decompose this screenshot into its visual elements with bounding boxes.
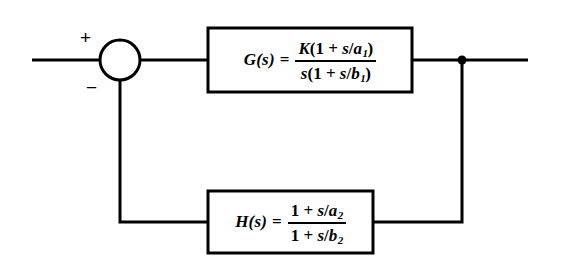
feedback-block-fraction-bar — [288, 222, 346, 224]
feedback-block-fraction: 1 + s/a2 1 + s/b2 — [288, 200, 346, 247]
feedback-block-lhs: H(s) — [235, 212, 267, 232]
feedback-block-denominator: 1 + s/b2 — [288, 225, 346, 246]
summing-junction-plus-sign: + — [80, 28, 91, 47]
takeoff-node-dot — [458, 56, 467, 65]
forward-block-equals: = — [280, 50, 290, 70]
feedback-block-numerator: 1 + s/a2 — [288, 200, 346, 221]
forward-block-lhs: G(s) — [244, 50, 275, 70]
feedback-block-equation: H(s) = 1 + s/a2 1 + s/b2 — [208, 191, 373, 253]
block-diagram: + − G(s) = K(1 + s/a1) s(1 + s/b1) H(s) … — [0, 0, 561, 270]
feedback-wire-left — [120, 80, 208, 222]
forward-block-numerator: K(1 + s/a1) — [295, 38, 376, 59]
forward-block-equation: G(s) = K(1 + s/a1) s(1 + s/b1) — [208, 28, 412, 92]
feedback-block-equals: = — [272, 212, 282, 232]
forward-block-fraction: K(1 + s/a1) s(1 + s/b1) — [295, 38, 376, 85]
summing-junction-circle — [100, 40, 140, 80]
summing-junction-minus-sign: − — [86, 78, 97, 97]
forward-block-denominator: s(1 + s/b1) — [298, 63, 374, 84]
forward-block-fraction-bar — [295, 60, 376, 62]
